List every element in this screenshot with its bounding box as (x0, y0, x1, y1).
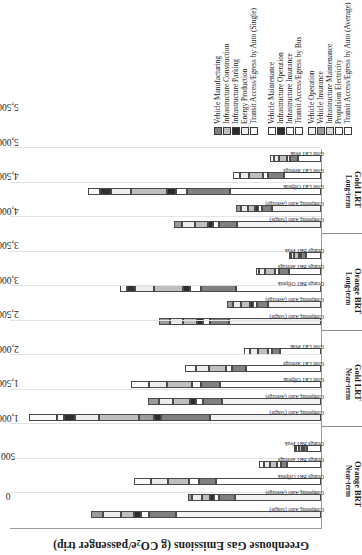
bar-segment-inf_con (241, 302, 250, 309)
category-label: Gold LRT Average (283, 168, 324, 174)
axis-tick-label: 0 (6, 491, 11, 501)
legend-column-3: Vehicle OperationVehicle InsuranceInfras… (308, 2, 353, 135)
group-separator (322, 427, 362, 428)
category-label: Orange BRT Peak (285, 248, 324, 254)
group-horizon-label: Near-term (344, 368, 352, 400)
axis-tick-label: 1,000 (0, 413, 19, 423)
bar-segment-inf_con (195, 222, 208, 229)
bar-segment-inf_con (279, 156, 287, 163)
bar-segment-inf_con (249, 172, 263, 179)
legend-label: Vehicle Manufacturing (214, 56, 222, 124)
bar-segment-en_prod (111, 189, 131, 196)
legend-label: Infrastructure Parking (232, 59, 240, 124)
bar-segment-inf_insu (57, 415, 64, 422)
bar-segment-en_prod (196, 365, 209, 372)
axis-title: Greenhouse Gas Emissions (g CO2e/passeng… (0, 537, 362, 553)
bar-segment-acc_avg (185, 365, 196, 372)
legend-swatch (277, 127, 285, 135)
gridline (10, 354, 321, 355)
category-label: Orange BRT Offpeak (278, 474, 324, 480)
category-label: Gold LRT Offpeak (283, 378, 324, 384)
bar-segment-veh_ins (148, 398, 159, 405)
group-scenario-label: Orange BRT (353, 268, 362, 314)
category-labels: Competing Auto (Single)Competing Auto (A… (322, 149, 362, 529)
bar-segment-inf_con (270, 462, 277, 469)
category-label: Orange BRT Peak (285, 441, 324, 447)
axis-tick-label: 4,000 (0, 206, 19, 216)
bar-segment-inf_con (121, 511, 134, 518)
bar-segment-inf_park (167, 189, 176, 196)
bar-segment-inf_con (202, 495, 210, 502)
bar-segment-veh_mfg (203, 398, 222, 405)
bar-segment-inf_con (248, 205, 256, 212)
legend-item: Infrastructure Construction (223, 8, 231, 135)
group-horizon-label: Near-term (344, 465, 352, 497)
legend-column-1: Vehicle ManufacturingInfrastructure Cons… (214, 8, 259, 135)
category-label: Gold LRT Average (283, 361, 324, 367)
category-label: Competing Auto (Single) (269, 314, 324, 320)
bar-segment-inf_park (154, 415, 161, 422)
category-label: Competing Auto (Average) (265, 394, 324, 400)
legend-swatch (223, 127, 231, 135)
bar-segment-veh_ins (139, 415, 154, 422)
bar-segment-inf_con (265, 269, 275, 276)
bar-segment-en_prod (149, 382, 167, 389)
gridline (10, 182, 321, 183)
bar-segment-inf_con (168, 478, 188, 485)
bar-segment-inf_con (209, 365, 226, 372)
legend-item: Vehicle Maintenance (268, 37, 276, 135)
axis-tick-label: 3,500 (0, 241, 19, 251)
axis-tick-label: 500 (1, 451, 15, 461)
bar-segment-veh_mnt (192, 382, 201, 389)
category-label: Orange BRT Average (278, 458, 324, 464)
axis-tick-label: 5,000 (0, 137, 19, 147)
gridline (10, 458, 321, 459)
bar-segment-veh_mfg (149, 511, 176, 518)
legend-label: Transit Access/Egress by Auto (Single) (250, 8, 258, 124)
axis-tick-labels: 05001,0001,5002,0002,5003,0003,5004,0004… (0, 149, 10, 529)
bar-segment-acc_sing (29, 415, 57, 422)
category-label: Competing Auto (Single) (269, 218, 324, 224)
category-label: Competing Auto (Average) (265, 491, 324, 497)
group-scenario-label: Orange BRT (353, 461, 362, 507)
category-label: Competing Auto (Single) (269, 507, 324, 513)
legend-label: Infrastructure Insurance (286, 53, 294, 124)
bar-segment-en_prod (151, 478, 168, 485)
bar-segment-veh_mfg (161, 415, 210, 422)
bar-segment-veh_mnt (141, 511, 150, 518)
axis-tick-label: 1,500 (0, 379, 19, 389)
axis-tick-label: 3,000 (0, 275, 19, 285)
legend-item: Propulsion Electricity (335, 2, 343, 135)
bar-segment-veh_ins (174, 222, 183, 229)
bar-segment-veh_mfg (219, 222, 237, 229)
bar-segment-en_prod (103, 511, 121, 518)
legend-item: Vehicle Insurance (317, 2, 325, 135)
bar-segment-veh_mfg (232, 365, 246, 372)
category-label: Competing Auto (Average) (265, 298, 324, 304)
legend-item: Transit Access/Egress by Auto (Average) (344, 2, 352, 135)
bar-segment-veh_mfg (268, 172, 284, 179)
legend-swatch (295, 127, 303, 135)
legend-item: Vehicle Operation (308, 2, 316, 135)
legend-swatch (326, 127, 334, 135)
bar-segment-en_prod (233, 302, 241, 309)
bar-segment-veh_mnt (196, 398, 203, 405)
bar-segment-acc_sing (131, 382, 149, 389)
bar-segment-en_prod (192, 495, 202, 502)
category-label: Competing Auto (Single) (269, 411, 324, 417)
bar-segment-en_prod (241, 205, 248, 212)
legend-label: Propulsion Electricity (335, 59, 343, 124)
axis-tick-label: 5,500 (0, 102, 19, 112)
legend-item: Infrastructure Maintenance (326, 2, 334, 135)
gridline (10, 389, 321, 390)
legend-item: Vehicle Manufacturing (214, 8, 222, 135)
axis-tick-label: 2,000 (0, 344, 19, 354)
bar-segment-veh_mfg (199, 478, 216, 485)
axis-tick-label: 4,500 (0, 171, 19, 181)
bar-segment-veh_mfg (219, 495, 235, 502)
group-horizon-label: Long-term (344, 272, 352, 305)
group-horizon-label: Long-term (344, 175, 352, 208)
bar-segment-en_prod (75, 415, 99, 422)
legend-label: Energy Production (241, 69, 249, 125)
legend-label: Infrastructure Operation (277, 52, 285, 124)
